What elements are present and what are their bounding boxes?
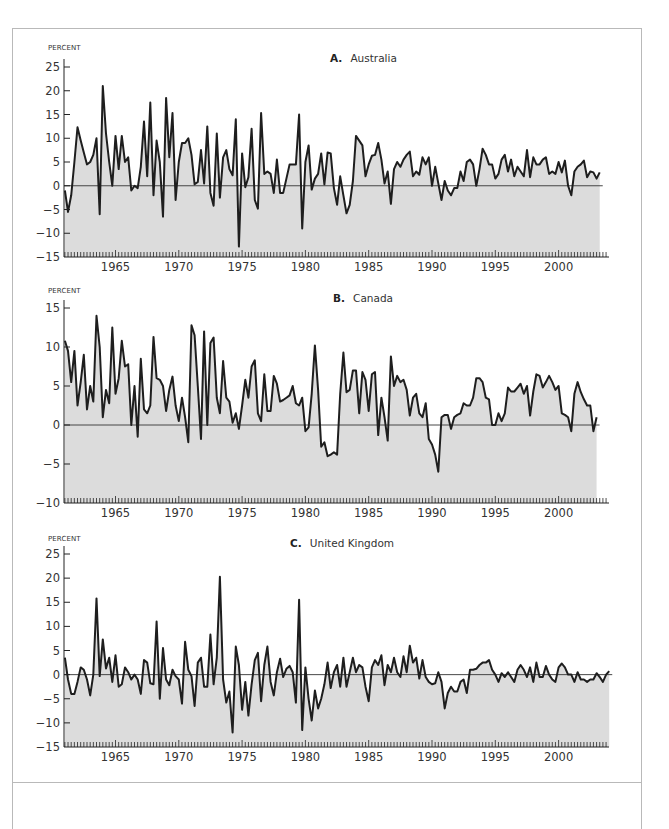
x-tick-label: 1970 (164, 750, 193, 764)
x-tick-label: 1985 (354, 750, 383, 764)
y-tick-label: −10 (36, 716, 60, 730)
y-axis-unit-label: PERCENT (48, 535, 81, 543)
panel-letter: C. (290, 537, 302, 549)
x-tick-label: 1990 (417, 750, 446, 764)
x-tick-label: 1975 (227, 750, 256, 764)
y-tick-label: −5 (43, 692, 60, 706)
y-tick-label: −15 (36, 740, 60, 754)
y-tick-label: 15 (45, 595, 60, 609)
x-tick-label: 1965 (101, 750, 130, 764)
y-tick-label: 10 (45, 619, 60, 633)
y-tick-label: 25 (45, 547, 60, 561)
x-tick-label: 1980 (291, 750, 320, 764)
panel-country-name: United Kingdom (310, 537, 394, 549)
x-tick-label: 2000 (544, 750, 573, 764)
area-series-united-kingdom: 2520151050−5−10−151965197019751980198519… (36, 546, 613, 764)
x-tick-label: 1995 (481, 750, 510, 764)
y-tick-label: 0 (53, 668, 60, 682)
y-tick-label: 5 (53, 644, 60, 658)
y-tick-label: 20 (45, 571, 60, 585)
panel-title: C. United Kingdom (290, 532, 394, 551)
